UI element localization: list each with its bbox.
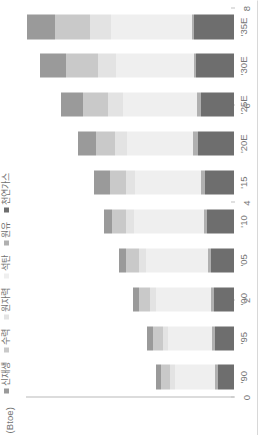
bar-segment[interactable] [153, 326, 163, 350]
bar-segment[interactable] [55, 14, 90, 38]
bar-segment[interactable] [96, 131, 116, 155]
bar-segment[interactable] [98, 53, 116, 77]
bar-segment[interactable] [110, 170, 126, 194]
bar-segment[interactable] [123, 92, 197, 116]
bar-segment[interactable] [175, 365, 215, 389]
legend-item[interactable]: 수력 [2, 328, 11, 352]
bar-segment[interactable] [119, 248, 126, 272]
legend-item-label: 수력 [2, 328, 11, 344]
bar-segment[interactable] [108, 92, 124, 116]
legend-item[interactable]: 천연가스 [2, 172, 11, 212]
bar-segment[interactable] [156, 287, 211, 311]
bar-segment[interactable] [90, 14, 111, 38]
legend-swatch-icon [4, 273, 9, 278]
bar-segment[interactable] [161, 365, 170, 389]
legend-item-label: 천연가스 [2, 172, 11, 204]
x-axis-category-label: '30E [238, 56, 249, 75]
x-axis-category-label: '10 [238, 215, 249, 227]
bar-segment[interactable] [211, 248, 234, 272]
bar-group[interactable]: '05 [119, 248, 234, 272]
bar-segment[interactable] [139, 248, 146, 272]
bar-segment[interactable] [215, 326, 234, 350]
legend-item[interactable]: 원자력 [2, 287, 11, 319]
bar-series-container: '90'95'00'05'10'15'20E'25E'30E'35E [26, 8, 234, 396]
y-axis-ticks: 02468 [234, 8, 235, 397]
x-axis-category-label: '35E [238, 17, 249, 36]
bar-segment[interactable] [104, 209, 112, 233]
bar-segment[interactable] [116, 53, 194, 77]
chart-legend: 신재생수력원자력석탄원유천연가스 [2, 172, 11, 393]
x-axis-category-label: '20E [238, 134, 249, 153]
bar-group[interactable]: '15 [94, 170, 234, 194]
bar-segment[interactable] [146, 248, 208, 272]
bar-segment[interactable] [218, 365, 234, 389]
bar-segment[interactable] [207, 209, 234, 233]
bar-segment[interactable] [134, 209, 204, 233]
y-axis-tick-label: 4 [241, 200, 252, 205]
legend-item[interactable]: 석탄 [2, 254, 11, 278]
y-axis-tick-label: 8 [241, 5, 252, 10]
bar-segment[interactable] [83, 92, 108, 116]
bar-segment[interactable] [94, 170, 110, 194]
x-axis-category-label: '90 [238, 370, 249, 382]
bar-segment[interactable] [139, 287, 150, 311]
bar-segment[interactable] [201, 92, 234, 116]
bar-segment[interactable] [111, 14, 192, 38]
chart-stage: (Btoe) 신재생수력원자력석탄원유천연가스 02468 '90'95'00'… [0, 0, 264, 435]
bar-group[interactable]: '90 [156, 365, 234, 389]
legend-item-label: 신재생 [2, 361, 11, 385]
x-axis-category-label: '25E [238, 95, 249, 114]
x-axis-category-label: '95 [238, 331, 249, 343]
legend-swatch-icon [4, 207, 9, 212]
bar-group[interactable]: '00 [133, 287, 234, 311]
legend-item[interactable]: 원유 [2, 221, 11, 245]
x-axis-category-label: '00 [238, 293, 249, 305]
bar-segment[interactable] [61, 92, 83, 116]
figure-baseline-rule [257, 0, 258, 435]
bar-segment[interactable] [196, 53, 234, 77]
bar-segment[interactable] [40, 53, 66, 77]
bar-segment[interactable] [168, 326, 212, 350]
legend-swatch-icon [4, 240, 9, 245]
bar-segment[interactable] [112, 209, 126, 233]
bar-segment[interactable] [115, 131, 127, 155]
bar-segment[interactable] [27, 14, 56, 38]
x-axis-category-label: '15 [238, 176, 249, 188]
legend-item-label: 원자력 [2, 287, 11, 311]
legend-item[interactable]: 신재생 [2, 361, 11, 393]
bar-group[interactable]: '95 [147, 326, 234, 350]
bar-segment[interactable] [205, 170, 234, 194]
bar-segment[interactable] [78, 131, 96, 155]
bar-segment[interactable] [126, 170, 135, 194]
stacked-bar-chart: (Btoe) 신재생수력원자력석탄원유천연가스 02468 '90'95'00'… [0, 0, 264, 435]
bar-group[interactable]: '35E [27, 14, 234, 38]
bar-segment[interactable] [214, 287, 234, 311]
legend-swatch-icon [4, 347, 9, 352]
bar-segment[interactable] [194, 14, 234, 38]
bar-segment[interactable] [198, 131, 234, 155]
axis-unit-label: (Btoe) [4, 407, 15, 433]
legend-item-label: 원유 [2, 221, 11, 237]
legend-item-label: 석탄 [2, 254, 11, 270]
legend-swatch-icon [4, 314, 9, 319]
bar-group[interactable]: '25E [61, 92, 234, 116]
bar-segment[interactable] [135, 170, 201, 194]
bar-segment[interactable] [126, 248, 138, 272]
y-axis-tick-label: 0 [241, 394, 252, 399]
bar-segment[interactable] [126, 209, 134, 233]
x-axis-category-label: '05 [238, 254, 249, 266]
bar-segment[interactable] [66, 53, 97, 77]
bar-group[interactable]: '20E [78, 131, 234, 155]
bar-segment[interactable] [127, 131, 193, 155]
plot-area: 02468 '90'95'00'05'10'15'20E'25E'30E'35E [26, 8, 234, 397]
bar-segment[interactable] [133, 287, 140, 311]
legend-swatch-icon [4, 388, 9, 393]
bar-group[interactable]: '10 [104, 209, 234, 233]
bar-group[interactable]: '30E [40, 53, 234, 77]
